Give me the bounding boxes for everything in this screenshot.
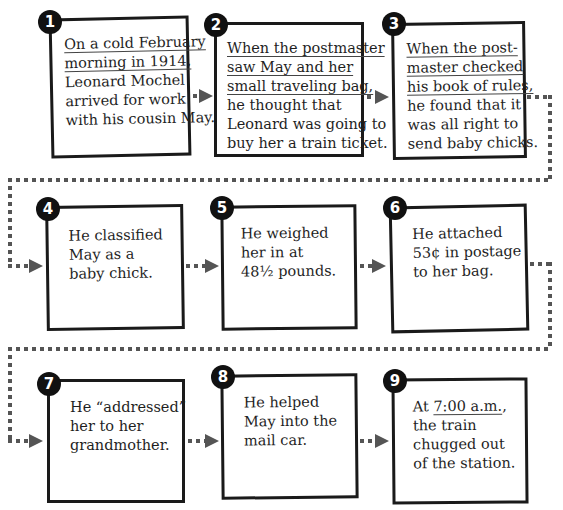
connector-3-4-c xyxy=(8,178,552,182)
arrow-icon-3-4 xyxy=(29,259,43,273)
step-6-line-2: 53¢ in postage xyxy=(412,242,514,263)
step-3-line-1: When the post- xyxy=(406,38,512,58)
step-1-line-2: morning in 1914, xyxy=(64,52,176,73)
step-8-line-3: mail car. xyxy=(244,430,345,450)
step-box-7: He “addressed” her to her grandmother. xyxy=(47,379,185,503)
connector-8-9 xyxy=(360,439,376,443)
step-2-line-6: buy her a train ticket. xyxy=(227,134,351,153)
step-7-line-1: He “addressed” xyxy=(70,398,174,417)
step-2-line-1: When the postmaster xyxy=(227,39,351,58)
step-number-badge-4: 4 xyxy=(36,197,60,221)
arrow-icon-2-3 xyxy=(375,90,389,104)
step-box-4: He classified May as a baby chick. xyxy=(45,204,185,331)
step-6-line-3: to her bag. xyxy=(413,261,515,282)
arrow-icon-1-2 xyxy=(199,89,213,103)
step-number-badge-9: 9 xyxy=(383,369,407,393)
step-9-line-3: chugged out xyxy=(413,435,517,455)
step-1-line-5: with his cousin May. xyxy=(65,109,177,130)
step-8-line-2: May into the xyxy=(244,411,345,431)
step-4-line-3: baby chick. xyxy=(69,263,171,283)
step-8-line-1: He helped xyxy=(244,392,345,412)
connector-6-7-e xyxy=(8,439,30,443)
arrow-icon-5-6 xyxy=(372,259,386,273)
step-box-2: When the postmaster saw May and her smal… xyxy=(214,22,364,157)
step-9-line-2: the train xyxy=(413,416,517,436)
step-number-badge-1: 1 xyxy=(38,10,62,34)
arrow-icon-8-9 xyxy=(375,434,389,448)
step-4-line-2: May as a xyxy=(69,244,171,264)
connector-3-4-a xyxy=(527,95,550,99)
step-7-line-2: her to her xyxy=(70,417,174,436)
connector-3-4-e xyxy=(8,264,30,268)
connector-6-7-c xyxy=(8,347,552,351)
step-5-line-1: He weighed xyxy=(241,223,344,243)
step-5-line-3: 48½ pounds. xyxy=(241,261,344,281)
arrow-icon-7-8 xyxy=(205,434,219,448)
step-9-line-1-suffix: , xyxy=(502,398,507,414)
connector-3-4-d xyxy=(8,178,12,266)
step-3-line-4: he found that it xyxy=(407,95,513,115)
step-1-line-4: arrived for work xyxy=(65,90,177,111)
step-box-9: At 7:00 a.m., the train chugged out of t… xyxy=(391,377,528,504)
step-3-line-3: his book of rules, xyxy=(407,76,513,96)
step-9-line-4: of the station. xyxy=(413,454,517,474)
connector-6-7-b xyxy=(548,262,552,349)
connector-3-4-b xyxy=(548,95,552,180)
step-2-line-2: saw May and her xyxy=(227,58,351,77)
step-1-line-3: Leonard Mochel xyxy=(65,71,177,92)
step-2-line-5: Leonard was going to xyxy=(227,115,351,134)
step-number-badge-7: 7 xyxy=(37,372,61,396)
sequence-diagram: On a cold February morning in 1914, Leon… xyxy=(0,0,563,510)
step-3-line-6: send baby chicks. xyxy=(408,133,514,153)
step-6-line-1: He attached xyxy=(412,223,514,244)
step-box-5: He weighed her in at 48½ pounds. xyxy=(220,204,357,330)
step-number-badge-8: 8 xyxy=(211,365,235,389)
step-2-line-4: he thought that xyxy=(227,96,351,115)
step-number-badge-5: 5 xyxy=(210,196,234,220)
connector-6-7-a xyxy=(530,262,550,266)
step-5-line-2: her in at xyxy=(241,242,344,262)
connector-4-5 xyxy=(186,264,206,268)
step-4-line-1: He classified xyxy=(68,225,170,245)
step-9-line-1: At 7:00 a.m., xyxy=(413,397,517,417)
connector-6-7-d xyxy=(8,347,12,441)
step-7-line-3: grandmother. xyxy=(70,436,174,455)
step-3-line-2: master checked xyxy=(407,57,513,77)
step-9-line-1-prefix: At xyxy=(413,398,434,414)
step-number-badge-6: 6 xyxy=(383,196,407,220)
step-box-3: When the post- master checked his book o… xyxy=(391,21,527,160)
arrow-icon-4-5 xyxy=(205,259,219,273)
step-2-line-3: small traveling bag, xyxy=(227,77,351,96)
step-box-8: He helped May into the mail car. xyxy=(220,373,358,499)
step-1-line-1: On a cold February xyxy=(64,33,176,54)
arrow-icon-6-7 xyxy=(29,434,43,448)
step-box-6: He attached 53¢ in postage to her bag. xyxy=(389,204,530,334)
connector-7-8 xyxy=(188,439,206,443)
step-number-badge-3: 3 xyxy=(382,12,406,36)
step-box-1: On a cold February morning in 1914, Leon… xyxy=(49,16,192,159)
step-number-badge-2: 2 xyxy=(204,13,228,37)
step-3-line-5: was all right to xyxy=(407,114,513,134)
step-9-time: 7:00 a.m. xyxy=(433,398,502,415)
